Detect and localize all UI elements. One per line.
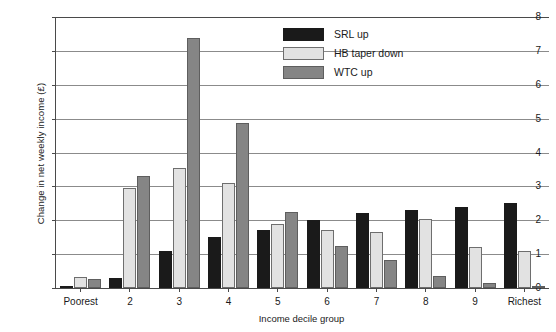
bar <box>321 230 334 288</box>
bar-group: Richest <box>500 17 549 288</box>
x-axis-tick-mark <box>475 288 476 292</box>
legend-item: SRL up <box>283 28 403 41</box>
bar <box>356 213 369 288</box>
bar-group: 4 <box>204 17 253 288</box>
bar <box>433 276 446 288</box>
bar <box>405 210 418 288</box>
x-axis-tick-mark <box>376 288 377 292</box>
bar <box>307 220 320 288</box>
x-axis-tick-mark <box>129 288 130 292</box>
bar <box>88 279 101 288</box>
x-axis-tick-mark <box>524 288 525 292</box>
x-axis-tick-mark <box>80 288 81 292</box>
legend: SRL upHB taper downWTC up <box>283 28 403 79</box>
bar <box>60 286 73 288</box>
y-axis-title: Change in net weekly income (£) <box>35 24 46 284</box>
bar <box>123 188 136 288</box>
bar <box>74 277 87 288</box>
x-axis-tick-mark <box>327 288 328 292</box>
bar <box>455 207 468 288</box>
bar <box>159 251 172 288</box>
x-axis-tick-label: Richest <box>475 297 556 307</box>
bar <box>208 237 221 288</box>
legend-label: HB taper down <box>334 48 403 59</box>
bar-chart: Change in net weekly income (£) 01234567… <box>0 0 556 332</box>
bar <box>483 283 496 288</box>
legend-swatch <box>283 47 324 60</box>
bar-group: 9 <box>450 17 499 288</box>
bar <box>222 183 235 288</box>
legend-item: WTC up <box>283 66 403 79</box>
bar-group: 2 <box>105 17 154 288</box>
bar <box>187 38 200 288</box>
bar <box>137 176 150 288</box>
legend-swatch <box>283 28 324 41</box>
legend-label: SRL up <box>334 29 369 40</box>
bar-group: Poorest <box>56 17 105 288</box>
caption-remnant <box>0 0 556 5</box>
x-axis-tick-mark <box>425 288 426 292</box>
bar <box>285 212 298 288</box>
bar <box>335 246 348 288</box>
bar-group: 8 <box>401 17 450 288</box>
bar <box>370 232 383 288</box>
bar <box>419 219 432 288</box>
bar <box>236 123 249 288</box>
x-axis-tick-mark <box>277 288 278 292</box>
legend-label: WTC up <box>334 67 373 78</box>
legend-item: HB taper down <box>283 47 403 60</box>
x-axis-title: Income decile group <box>55 313 548 324</box>
bar-group: 3 <box>155 17 204 288</box>
bar <box>469 247 482 288</box>
x-axis-tick-mark <box>228 288 229 292</box>
bar <box>257 230 270 288</box>
bar <box>173 168 186 288</box>
y-axis-tick-mark <box>52 288 56 289</box>
bar <box>109 278 122 288</box>
bar <box>384 260 397 288</box>
x-axis-tick-mark <box>179 288 180 292</box>
bar <box>532 286 545 288</box>
bar <box>518 251 531 288</box>
bar <box>271 224 284 288</box>
legend-swatch <box>283 66 324 79</box>
bar <box>504 203 517 288</box>
